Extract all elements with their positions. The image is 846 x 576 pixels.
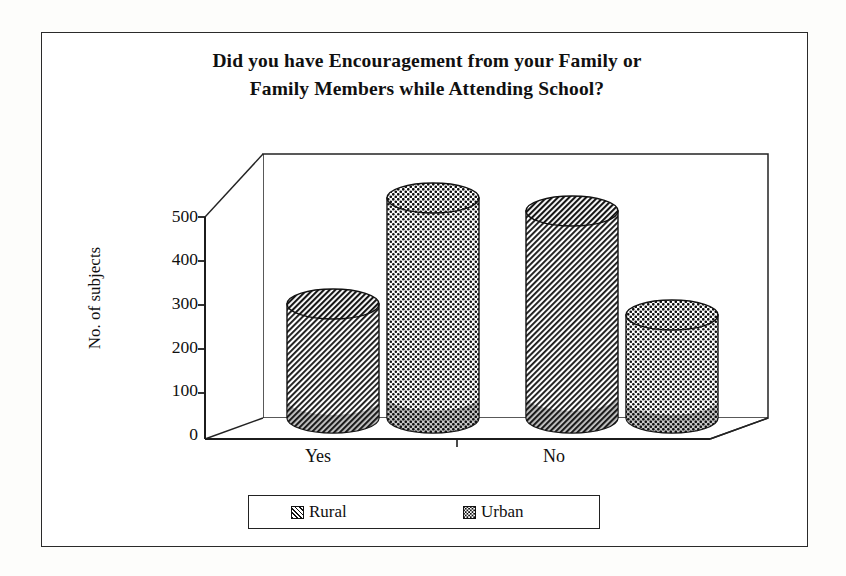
plot-area <box>42 33 809 463</box>
scanned-page: Did you have Encouragement from your Fam… <box>0 0 846 576</box>
bar-urban-yes <box>387 183 479 433</box>
bar-rural-yes <box>287 289 379 433</box>
legend-swatch-rural-icon <box>291 506 304 519</box>
chart-canvas <box>42 33 809 463</box>
bar-rural-no <box>526 196 618 433</box>
legend-label-rural: Rural <box>309 502 347 522</box>
bar-urban-no <box>626 300 718 433</box>
legend-item-rural[interactable]: Rural <box>291 496 347 528</box>
figure-frame: Did you have Encouragement from your Fam… <box>41 32 808 547</box>
legend-item-urban[interactable]: Urban <box>463 496 523 528</box>
chart-legend: Rural Urban <box>248 495 600 529</box>
legend-swatch-urban-icon <box>463 506 476 519</box>
legend-label-urban: Urban <box>481 502 523 522</box>
plot-left-wall <box>205 154 263 439</box>
